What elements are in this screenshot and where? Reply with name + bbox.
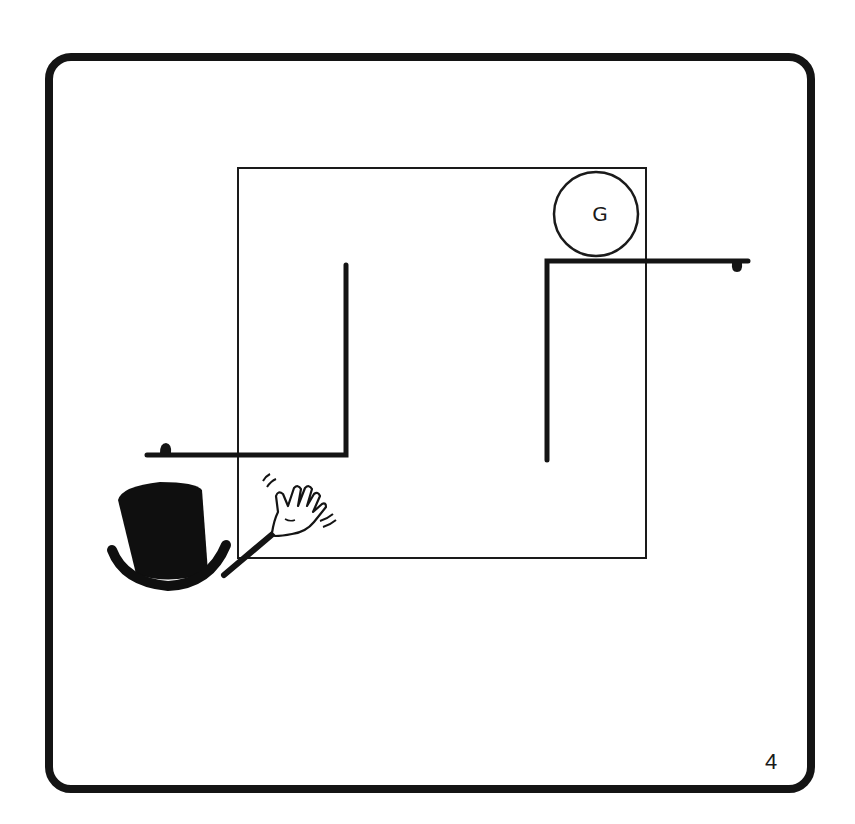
left-wall-peg-icon	[160, 443, 171, 453]
left-wall	[147, 265, 346, 455]
page-number: 4	[765, 749, 777, 775]
right-wall-peg-icon	[732, 263, 742, 272]
goal-label: G	[586, 202, 614, 226]
right-wall	[547, 261, 748, 460]
waving-hand-icon[interactable]	[224, 474, 336, 575]
maze-scene	[0, 0, 855, 824]
top-hat-icon[interactable]	[112, 482, 226, 586]
